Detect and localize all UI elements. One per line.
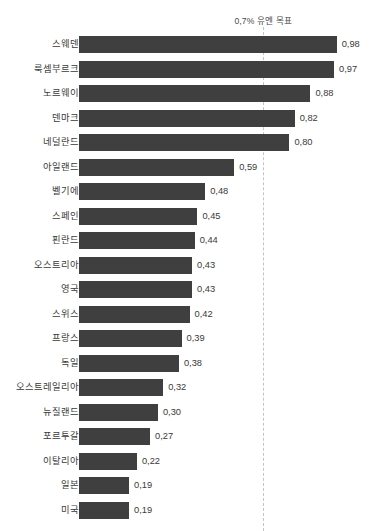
category-label: 스웨덴 bbox=[52, 36, 79, 53]
bar bbox=[79, 477, 129, 494]
category-label: 오스트리아 bbox=[34, 257, 79, 274]
bar bbox=[79, 61, 334, 78]
value-label: 0,38 bbox=[184, 355, 202, 372]
bar-row: 스위스0,42 bbox=[0, 306, 386, 331]
value-label: 0,32 bbox=[168, 379, 186, 396]
category-label: 프랑스 bbox=[52, 330, 79, 347]
bar-row: 오스트레일리아0,32 bbox=[0, 379, 386, 404]
category-label: 아일랜드 bbox=[43, 159, 79, 176]
value-label: 0,82 bbox=[300, 110, 318, 127]
value-label: 0,42 bbox=[195, 306, 213, 323]
bar bbox=[79, 134, 289, 151]
bar bbox=[79, 355, 179, 372]
bar-row: 네덜란드0,80 bbox=[0, 134, 386, 159]
bar bbox=[79, 379, 163, 396]
value-label: 0,30 bbox=[163, 404, 181, 421]
bar-row: 핀란드0,44 bbox=[0, 232, 386, 257]
bar-row: 오스트리아0,43 bbox=[0, 257, 386, 282]
value-label: 0,22 bbox=[142, 453, 160, 470]
bar bbox=[79, 502, 129, 519]
bar-row: 벨기에0,48 bbox=[0, 183, 386, 208]
bar-row: 일본0,19 bbox=[0, 477, 386, 502]
bar-row: 스페인0,45 bbox=[0, 208, 386, 233]
category-label: 스페인 bbox=[52, 208, 79, 225]
value-label: 0,44 bbox=[200, 232, 218, 249]
bar bbox=[79, 85, 310, 102]
bar bbox=[79, 232, 195, 249]
plot-area: 스웨덴0,98룩셈부르크0,97노르웨이0,88덴마크0,82네덜란드0,80아… bbox=[0, 36, 386, 526]
value-label: 0,27 bbox=[155, 428, 173, 445]
category-label: 일본 bbox=[61, 477, 79, 494]
value-label: 0,59 bbox=[239, 159, 257, 176]
bar bbox=[79, 306, 190, 323]
bar-row: 뉴질랜드0,30 bbox=[0, 404, 386, 429]
bar bbox=[79, 404, 158, 421]
value-label: 0,88 bbox=[315, 85, 333, 102]
bar bbox=[79, 36, 337, 53]
bar bbox=[79, 428, 150, 445]
category-label: 룩셈부르크 bbox=[34, 61, 79, 78]
value-label: 0,43 bbox=[197, 257, 215, 274]
value-label: 0,48 bbox=[210, 183, 228, 200]
value-label: 0,19 bbox=[134, 502, 152, 519]
category-label: 벨기에 bbox=[52, 183, 79, 200]
bar bbox=[79, 183, 205, 200]
category-label: 오스트레일리아 bbox=[16, 379, 79, 396]
bar bbox=[79, 208, 197, 225]
bar bbox=[79, 330, 182, 347]
bar bbox=[79, 257, 192, 274]
value-label: 0,19 bbox=[134, 477, 152, 494]
bar bbox=[79, 159, 234, 176]
value-label: 0,45 bbox=[202, 208, 220, 225]
bar-row: 미국0,19 bbox=[0, 502, 386, 527]
value-label: 0,80 bbox=[294, 134, 312, 151]
category-label: 핀란드 bbox=[52, 232, 79, 249]
value-label: 0,98 bbox=[342, 36, 360, 53]
bar-row: 스웨덴0,98 bbox=[0, 36, 386, 61]
category-label: 미국 bbox=[61, 502, 79, 519]
value-label: 0,97 bbox=[339, 61, 357, 78]
category-label: 네덜란드 bbox=[43, 134, 79, 151]
category-label: 영국 bbox=[61, 281, 79, 298]
bar-row: 독일0,38 bbox=[0, 355, 386, 380]
bar-row: 프랑스0,39 bbox=[0, 330, 386, 355]
bar bbox=[79, 453, 137, 470]
category-label: 독일 bbox=[61, 355, 79, 372]
bar-row: 영국0,43 bbox=[0, 281, 386, 306]
category-label: 덴마크 bbox=[52, 110, 79, 127]
category-label: 이탈리아 bbox=[43, 453, 79, 470]
bar-row: 덴마크0,82 bbox=[0, 110, 386, 135]
bar-row: 아일랜드0,59 bbox=[0, 159, 386, 184]
category-label: 스위스 bbox=[52, 306, 79, 323]
bar bbox=[79, 110, 295, 127]
bar bbox=[79, 281, 192, 298]
bar-row: 포르투갈0,27 bbox=[0, 428, 386, 453]
category-label: 포르투갈 bbox=[43, 428, 79, 445]
bar-row: 룩셈부르크0,97 bbox=[0, 61, 386, 86]
target-annotation-label: 0,7% 유엔 목표 bbox=[234, 14, 291, 26]
value-label: 0,43 bbox=[197, 281, 215, 298]
value-label: 0,39 bbox=[187, 330, 205, 347]
bar-row: 이탈리아0,22 bbox=[0, 453, 386, 478]
bar-row: 노르웨이0,88 bbox=[0, 85, 386, 110]
category-label: 뉴질랜드 bbox=[43, 404, 79, 421]
category-label: 노르웨이 bbox=[43, 85, 79, 102]
